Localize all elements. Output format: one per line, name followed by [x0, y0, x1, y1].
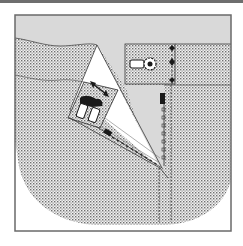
site-plan-diagram [0, 0, 243, 246]
tree-icon [144, 58, 156, 70]
gate-bar [160, 93, 165, 104]
vehicle-icon [130, 60, 144, 68]
